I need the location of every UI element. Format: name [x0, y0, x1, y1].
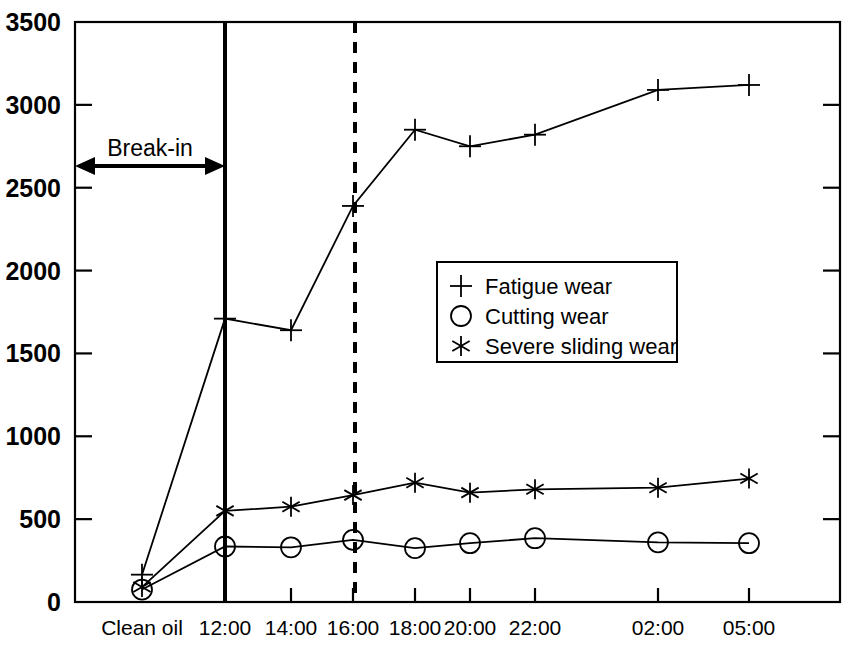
legend-label: Severe sliding wear [485, 334, 677, 359]
series-line-cutting-wear [142, 538, 749, 589]
x-axis-tick-label: Clean oil [101, 616, 183, 639]
break-in-label: Break-in [107, 135, 193, 161]
x-axis-tick-label: 05:00 [723, 616, 776, 639]
y-axis-tick-label: 1000 [5, 422, 61, 450]
x-axis-tick-label: 12:00 [199, 616, 252, 639]
legend-label: Cutting wear [485, 304, 609, 329]
legend-label: Fatigue wear [485, 274, 612, 299]
y-axis-tick-label: 500 [19, 505, 61, 533]
chart-figure: 0500100015002000250030003500Clean oil12:… [0, 0, 858, 653]
y-axis-tick-label: 1500 [5, 339, 61, 367]
x-axis-tick-label: 20:00 [444, 616, 497, 639]
break-in-arrow-head-left [75, 157, 95, 175]
x-axis-tick-label: 18:00 [389, 616, 442, 639]
y-axis-tick-label: 2000 [5, 257, 61, 285]
y-axis-tick-label: 0 [47, 588, 61, 616]
x-axis-tick-label: 22:00 [509, 616, 562, 639]
y-axis-tick-label: 3500 [5, 8, 61, 36]
x-axis-tick-label: 02:00 [632, 616, 685, 639]
y-axis-tick-label: 2500 [5, 174, 61, 202]
wear-particle-line-chart: 0500100015002000250030003500Clean oil12:… [0, 0, 858, 653]
x-axis-tick-label: 16:00 [327, 616, 380, 639]
break-in-arrow-head-right [205, 157, 225, 175]
x-axis-tick-label: 14:00 [265, 616, 318, 639]
y-axis-tick-label: 3000 [5, 91, 61, 119]
